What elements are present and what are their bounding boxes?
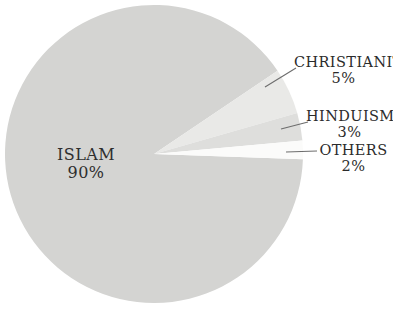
- slice-label-christianity-value: 5%: [294, 70, 393, 86]
- slice-label-islam-value: 90%: [38, 164, 134, 182]
- slice-label-others-value: 2%: [314, 158, 393, 174]
- slice-label-others: OTHERS 2%: [314, 142, 393, 174]
- slice-label-christianity: CHRISTIANITY 5%: [294, 54, 393, 86]
- slice-label-hinduism-value: 3%: [306, 124, 393, 140]
- slice-label-hinduism-name: HINDUISM: [306, 108, 393, 124]
- slice-label-islam-name: ISLAM: [38, 146, 134, 164]
- slice-label-others-name: OTHERS: [314, 142, 393, 158]
- slice-label-christianity-name: CHRISTIANITY: [294, 54, 393, 70]
- slice-label-hinduism: HINDUISM 3%: [306, 108, 393, 140]
- slice-label-islam: ISLAM 90%: [38, 146, 134, 182]
- pie-chart: ISLAM 90% CHRISTIANITY 5% HINDUISM 3% OT…: [0, 0, 393, 312]
